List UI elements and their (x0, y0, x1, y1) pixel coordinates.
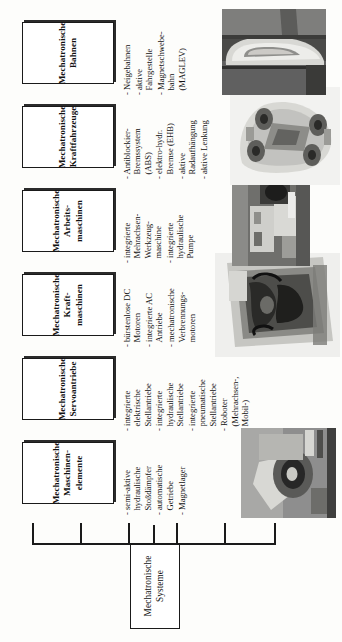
bullet-list-kraftmaschinen: - bürstenlose DC Motoren - integrierte A… (122, 263, 199, 347)
diagram-canvas: Mechatronische Systeme Mechatronische Ma… (0, 0, 342, 642)
hydraulic-pump-photo (232, 174, 310, 266)
node-box-bahnen[interactable]: Mechatronische Bahnen (22, 22, 114, 84)
bullet-list-bahnen: - Neigebahnen - aktive Fahrgestelle - Ma… (122, 11, 188, 95)
list-item: - integrierte Mehrachsen- Werkzeug- masc… (122, 179, 163, 263)
list-item: - Roboter (Mehrachsen-, Mobil-) (219, 347, 250, 431)
tree-branch-line-1 (32, 523, 34, 545)
bullet-list-arbeitsmaschinen: - integrierte Mehrachsen- Werkzeug- masc… (122, 179, 197, 263)
node-box-arbeitsmaschinen[interactable]: Mechatronische Arbeits- maschinen (22, 190, 114, 252)
list-item: - integrierte AC Antriebe (144, 263, 165, 347)
tree-branch-line-5 (224, 523, 226, 545)
list-item: - aktive Fahrgestelle (134, 11, 155, 95)
node-label-line3: elemente (74, 442, 85, 505)
list-item: - bürstenlose DC Motoren (122, 263, 143, 347)
node-label-line2: Maschinen- (62, 442, 73, 505)
maglev-train-photo (222, 9, 326, 95)
list-item: - integrierte hydraulische Stellantriebe (154, 347, 185, 431)
list-item: - elektro-hydr. Bremse (EHB) (154, 95, 175, 179)
root-label-line2: Systeme (155, 556, 167, 617)
list-item: - integrierte hydraulische Pumpe (165, 179, 196, 263)
node-label-line1: Mechatronische (51, 190, 62, 253)
tree-branch-line-3 (128, 523, 130, 545)
list-item: - semi-aktive hydraulische Stoßdämpfer (122, 431, 153, 515)
node-label-line2: Servoantriebe (68, 358, 79, 421)
bullet-list-maschinenelemente: - semi-aktive hydraulische Stoßdämpfer -… (122, 431, 188, 515)
node-label-line2: Kraftfahrzeuge (68, 106, 79, 169)
tree-branch-line-6 (274, 523, 276, 545)
list-item: - Magnetlager (177, 431, 187, 515)
list-item: - aktive Lenkung (199, 95, 209, 179)
node-label-line2: Kraft- (62, 274, 73, 337)
node-label-line2: Arbeits- (62, 190, 73, 253)
tree-trunk-line (32, 543, 276, 545)
tree-branch-line-2 (80, 523, 82, 545)
list-item: - Antiblockier- Bremssystem (ABS) (122, 95, 153, 179)
node-label-line2: Bahnen (68, 22, 79, 85)
root-node-mechatronische-systeme: Mechatronische Systeme (130, 543, 180, 629)
list-item: - integrierte pneumatische Stellantriebe (187, 347, 218, 431)
node-box-kraftfahrzeuge[interactable]: Mechatronische Kraftfahrzeuge (22, 106, 114, 168)
node-box-kraftmaschinen[interactable]: Mechatronische Kraft- maschinen (22, 274, 114, 336)
node-box-servoantriebe[interactable]: Mechatronische Servoantriebe (22, 358, 114, 420)
tree-branch-line-4 (176, 523, 178, 545)
list-item: - aktive Radaufhängung (177, 95, 198, 179)
node-label-line1: Mechatronische (57, 106, 68, 169)
list-item: - Magnetschwebe- bahn (MAGLEV) (156, 11, 187, 95)
magnetic-bearing-photo (241, 428, 336, 518)
bullet-list-kraftfahrzeuge: - Antiblockier- Bremssystem (ABS) - elek… (122, 95, 211, 179)
node-label-line3: maschinen (74, 190, 85, 253)
list-item: - automatische Getriebe (154, 431, 175, 515)
node-label-line3: maschinen (74, 274, 85, 337)
branch-column-bahnen: Mechatronische Bahnen - Neigebahnen - ak… (0, 3, 342, 103)
tree-root-connector (153, 525, 155, 545)
node-box-maschinenelemente[interactable]: Mechatronische Maschinen- elemente (22, 442, 114, 504)
bullet-list-servoantriebe: - integrierte elektrische Stellantriebe … (122, 347, 252, 431)
node-label-line1: Mechatronische (51, 274, 62, 337)
node-label-line1: Mechatronische (57, 358, 68, 421)
list-item: - mechatronische Verbrennungs- motoren (166, 263, 197, 347)
node-label-line1: Mechatronische (57, 22, 68, 85)
list-item: - Neigebahnen (122, 11, 132, 95)
root-label-line1: Mechatronische (143, 556, 153, 617)
node-label-line1: Mechatronische (51, 442, 62, 505)
list-item: - integrierte elektrische Stellantriebe (122, 347, 153, 431)
